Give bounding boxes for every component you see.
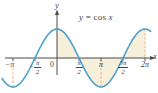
frac-minus-sign: −: [29, 64, 34, 71]
fraction-denominator: 2: [36, 68, 40, 76]
x-tick-label-−π/2: −π2: [29, 59, 41, 76]
x-tick-label-2π: 2π: [141, 60, 149, 69]
x-tick-label-−π: −π: [5, 60, 14, 69]
x-tick-label-0: 0: [50, 60, 54, 69]
y-axis-label: y: [55, 0, 59, 10]
fraction-numerator: 3π: [118, 59, 128, 68]
fraction-stack: π2: [34, 59, 41, 76]
cosine-graph-figure: y=cosx y x −π−π20π2π3π22π: [0, 0, 158, 93]
fraction-denominator: 2: [77, 68, 81, 76]
fraction-numerator: π: [76, 59, 83, 68]
x-axis-label: x: [153, 51, 157, 61]
equation-function-name: cos: [93, 12, 106, 22]
x-tick-label-π/2: π2: [76, 59, 83, 76]
equation-lhs: y: [79, 12, 83, 22]
fraction-stack: π2: [76, 59, 83, 76]
equation-label: y=cosx: [79, 12, 113, 22]
equation-argument: x: [109, 12, 113, 22]
fraction-stack: 3π2: [118, 59, 128, 76]
fraction-denominator: 2: [121, 68, 125, 76]
y-axis-arrow: [55, 10, 59, 16]
fraction-numerator: π: [34, 59, 41, 68]
x-tick-label-π: π: [99, 60, 103, 69]
x-tick-label-3π/2: 3π2: [118, 59, 128, 76]
equals-sign: =: [86, 12, 91, 22]
